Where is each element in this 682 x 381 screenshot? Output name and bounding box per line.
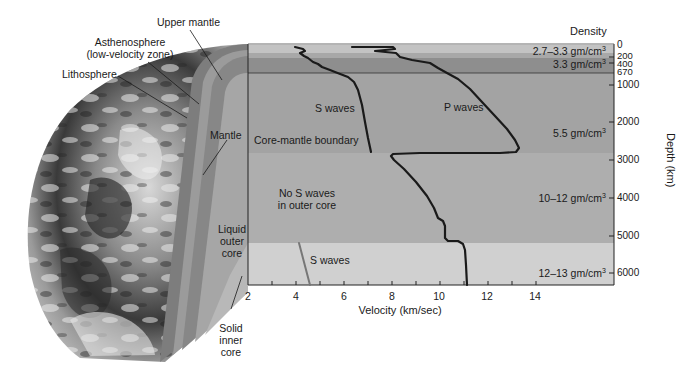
y-axis-title: Depth (km) bbox=[665, 133, 677, 187]
s-waves-label: S waves bbox=[315, 102, 355, 114]
density-crust: 2.7–3.3 gm/cm3 bbox=[533, 45, 606, 57]
core-mantle-boundary-label: Core-mantle boundary bbox=[254, 134, 358, 146]
density-mantle: 5.5 gm/cm3 bbox=[553, 127, 606, 139]
density-title: Density bbox=[570, 25, 607, 37]
no-s-waves-line1: No S waves bbox=[262, 187, 352, 199]
solid-inner-core-line2: inner bbox=[213, 334, 249, 346]
x-tick-6: 6 bbox=[334, 290, 354, 302]
plot-depth-bands bbox=[248, 45, 614, 285]
depth-tick-670: 670 bbox=[617, 66, 633, 77]
solid-inner-core-line1: Solid bbox=[213, 322, 249, 334]
asthenosphere-label-line2: (low-velocity zone) bbox=[80, 48, 180, 60]
density-outer-core: 10–12 gm/cm3 bbox=[538, 192, 606, 204]
liquid-outer-core-label: Liquid outer core bbox=[213, 223, 251, 259]
density-upper-mantle: 3.3 gm/cm3 bbox=[553, 58, 606, 70]
depth-tick-4000: 4000 bbox=[617, 192, 639, 203]
no-s-waves-label: No S waves in outer core bbox=[262, 187, 352, 211]
upper-mantle-label: Upper mantle bbox=[157, 16, 220, 28]
liquid-outer-core-line2: outer bbox=[213, 235, 251, 247]
depth-tick-6000: 6000 bbox=[617, 267, 639, 278]
x-tick-14: 14 bbox=[525, 290, 545, 302]
p-waves-label: P waves bbox=[444, 101, 484, 113]
x-tick-2: 2 bbox=[238, 290, 258, 302]
x-tick-10: 10 bbox=[429, 290, 449, 302]
earth-interior-figure: Upper mantle Asthenosphere (low-velocity… bbox=[0, 0, 682, 381]
x-tick-4: 4 bbox=[286, 290, 306, 302]
depth-tick-0: 0 bbox=[617, 39, 623, 50]
s-waves-inner-label: S waves bbox=[310, 254, 350, 266]
depth-tick-1000: 1000 bbox=[617, 79, 639, 90]
depth-tick-5000: 5000 bbox=[617, 230, 639, 241]
asthenosphere-label: Asthenosphere (low-velocity zone) bbox=[80, 36, 180, 60]
no-s-waves-line2: in outer core bbox=[262, 199, 352, 211]
mantle-label: Mantle bbox=[210, 129, 242, 141]
x-axis-title: Velocity (km/sec) bbox=[340, 304, 460, 316]
density-inner-core: 12–13 gm/cm3 bbox=[538, 267, 606, 279]
x-tick-12: 12 bbox=[477, 290, 497, 302]
liquid-outer-core-line3: core bbox=[213, 247, 251, 259]
asthenosphere-label-line1: Asthenosphere bbox=[80, 36, 180, 48]
solid-inner-core-line3: core bbox=[213, 346, 249, 358]
liquid-outer-core-line1: Liquid bbox=[213, 223, 251, 235]
depth-tick-3000: 3000 bbox=[617, 154, 639, 165]
depth-tick-2000: 2000 bbox=[617, 116, 639, 127]
lithosphere-label: Lithosphere bbox=[62, 68, 117, 80]
x-tick-8: 8 bbox=[382, 290, 402, 302]
solid-inner-core-label: Solid inner core bbox=[213, 322, 249, 358]
